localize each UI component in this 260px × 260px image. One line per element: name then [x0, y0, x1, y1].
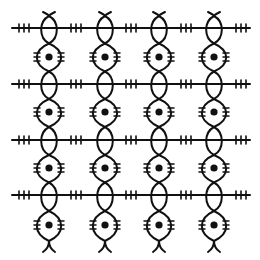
center-dot: [210, 53, 217, 60]
center-dot: [155, 221, 162, 228]
center-dot: [210, 221, 217, 228]
center-dot: [101, 53, 108, 60]
center-dot: [45, 221, 52, 228]
center-dot: [101, 221, 108, 228]
center-dot: [155, 108, 162, 115]
center-dot: [155, 53, 162, 60]
center-dot: [155, 164, 162, 171]
center-dot: [210, 108, 217, 115]
center-dot: [101, 108, 108, 115]
braided-lattice-illustration: [0, 0, 260, 260]
center-dot: [45, 53, 52, 60]
center-dot: [45, 164, 52, 171]
center-dot: [101, 164, 108, 171]
center-dot: [45, 108, 52, 115]
center-dot: [210, 164, 217, 171]
